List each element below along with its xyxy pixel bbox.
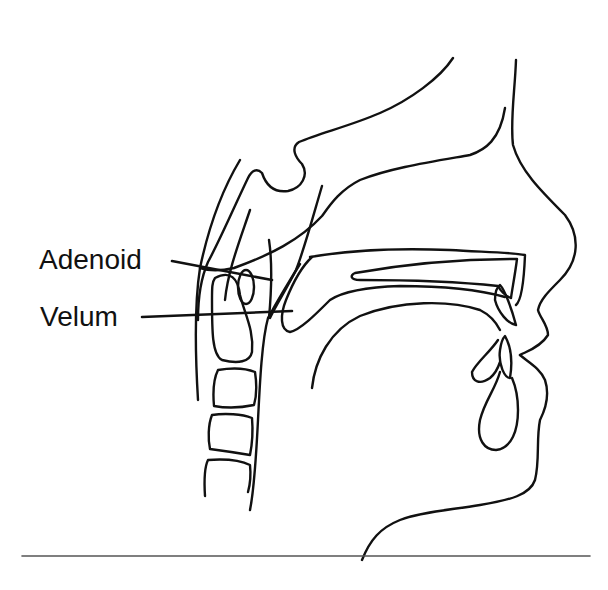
mandible <box>479 372 518 450</box>
palate-bone <box>352 259 517 298</box>
posterior-pharynx <box>270 186 322 318</box>
vertebra-c2 <box>212 275 252 362</box>
nose-profile <box>512 60 576 355</box>
lips-chin <box>362 355 547 560</box>
label-velum: Velum <box>40 303 118 331</box>
vertebra-c5 <box>204 460 250 496</box>
hard-palate-top <box>310 249 525 305</box>
vertebra-c3 <box>213 369 256 408</box>
lower-incisor <box>500 336 512 378</box>
lower-lip-inner <box>472 340 500 382</box>
label-adenoid: Adenoid <box>39 246 142 274</box>
pharynx-wall <box>250 264 300 510</box>
velum-outline <box>282 257 505 332</box>
sagittal-head-drawing <box>0 0 608 590</box>
anatomy-figure <box>0 0 608 590</box>
adenoid-leader-line <box>172 261 272 280</box>
vertebra-c4 <box>209 414 253 455</box>
cranial-base <box>200 108 505 270</box>
